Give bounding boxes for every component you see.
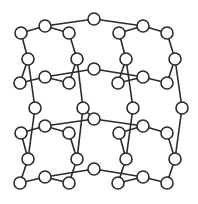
graph-edge [28, 59, 35, 108]
graph-node [88, 113, 100, 125]
graph-node [137, 71, 149, 83]
graph-node [39, 20, 51, 32]
graph-node [176, 102, 188, 114]
graph-node [88, 163, 100, 175]
graph-edge [45, 169, 94, 177]
graph-edge [45, 69, 94, 77]
graph-node [63, 77, 75, 89]
graph-edge [94, 169, 143, 177]
graph-node [161, 77, 173, 89]
graph-node [127, 102, 139, 114]
graph-node [22, 153, 34, 165]
graph-node [15, 27, 27, 39]
graph-node [137, 20, 149, 32]
graph-node [137, 120, 149, 132]
graph-node [113, 127, 125, 139]
graph-edge [175, 108, 182, 159]
graph-edge [94, 19, 143, 26]
graph-node [15, 127, 27, 139]
graph-node [161, 27, 173, 39]
node-layer [14, 13, 188, 189]
graph-diagram [0, 0, 198, 204]
graph-node [112, 77, 124, 89]
graph-edge [77, 108, 83, 159]
graph-node [63, 27, 75, 39]
graph-node [120, 153, 132, 165]
graph-node [39, 171, 51, 183]
graph-node [29, 102, 41, 114]
graph-edge [28, 108, 35, 159]
graph-node [112, 177, 124, 189]
graph-node [22, 53, 34, 65]
graph-node [14, 77, 26, 89]
graph-node [14, 177, 26, 189]
graph-node [161, 127, 173, 139]
graph-edge [77, 59, 83, 108]
graph-node [71, 153, 83, 165]
graph-edge [45, 119, 94, 126]
graph-node [137, 171, 149, 183]
graph-node [113, 27, 125, 39]
graph-node [77, 102, 89, 114]
graph-node [39, 71, 51, 83]
graph-node [71, 53, 83, 65]
graph-node [39, 120, 51, 132]
graph-edge [175, 59, 182, 108]
graph-edge [126, 59, 133, 108]
graph-edge [94, 119, 143, 126]
graph-node [169, 53, 181, 65]
edge-layer [20, 19, 182, 183]
graph-node [63, 177, 75, 189]
graph-node [169, 153, 181, 165]
graph-edge [45, 19, 94, 26]
graph-node [120, 53, 132, 65]
graph-node [161, 177, 173, 189]
graph-node [88, 63, 100, 75]
graph-edge [94, 69, 143, 77]
graph-node [63, 127, 75, 139]
graph-node [88, 13, 100, 25]
graph-edge [126, 108, 133, 159]
